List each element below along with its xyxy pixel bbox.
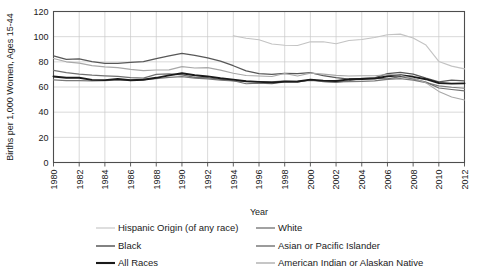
y-tick-label: 60 bbox=[38, 82, 48, 92]
legend-label: Black bbox=[118, 240, 141, 251]
series-line-0 bbox=[233, 34, 464, 69]
x-axis-tick-marks bbox=[54, 163, 465, 167]
x-tick-label: 1988 bbox=[152, 170, 162, 190]
legend-label: Hispanic Origin (of any race) bbox=[118, 222, 238, 233]
x-tick-label: 2008 bbox=[409, 170, 419, 190]
x-tick-label: 1980 bbox=[49, 170, 59, 190]
x-tick-label: 1986 bbox=[126, 170, 136, 190]
x-axis-title-group: Year bbox=[250, 207, 268, 217]
x-tick-label: 2004 bbox=[357, 170, 367, 190]
y-tick-label: 40 bbox=[38, 107, 48, 117]
chart-figure: Births per 1,000 Women, Ages 15-44 02040… bbox=[0, 0, 483, 277]
legend-label: Asian or Pacific Islander bbox=[278, 240, 380, 251]
x-tick-label: 2012 bbox=[460, 170, 470, 190]
x-tick-label: 1998 bbox=[280, 170, 290, 190]
y-axis-title: Births per 1,000 Women, Ages 15-44 bbox=[5, 13, 15, 160]
y-tick-label: 0 bbox=[43, 158, 48, 168]
y-tick-label: 100 bbox=[33, 32, 48, 42]
chart-legend: Hispanic Origin (of any race)WhiteBlackA… bbox=[96, 222, 423, 268]
y-tick-label: 120 bbox=[33, 7, 48, 17]
y-axis-title-group: Births per 1,000 Women, Ages 15-44 bbox=[5, 13, 15, 160]
x-axis-tick-labels: 1980198219841986198819901992199419961998… bbox=[49, 170, 470, 190]
y-axis-tick-labels: 020406080100120 bbox=[33, 7, 48, 168]
x-tick-label: 1994 bbox=[229, 170, 239, 190]
x-tick-label: 1996 bbox=[254, 170, 264, 190]
chart-svg: Births per 1,000 Women, Ages 15-44 02040… bbox=[0, 0, 483, 277]
x-tick-label: 1984 bbox=[100, 170, 110, 190]
x-tick-label: 2006 bbox=[383, 170, 393, 190]
legend-label: American Indian or Alaskan Native bbox=[278, 257, 423, 268]
x-tick-label: 1992 bbox=[203, 170, 213, 190]
x-tick-label: 2000 bbox=[306, 170, 316, 190]
x-tick-label: 2010 bbox=[434, 170, 444, 190]
x-axis-title: Year bbox=[250, 207, 268, 217]
x-tick-label: 2002 bbox=[331, 170, 341, 190]
legend-label: White bbox=[278, 222, 302, 233]
y-tick-label: 80 bbox=[38, 57, 48, 67]
x-tick-label: 1990 bbox=[177, 170, 187, 190]
y-tick-label: 20 bbox=[38, 133, 48, 143]
x-tick-label: 1982 bbox=[75, 170, 85, 190]
legend-label: All Races bbox=[118, 257, 158, 268]
